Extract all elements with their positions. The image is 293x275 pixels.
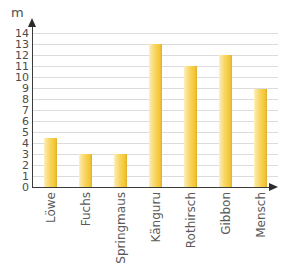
x-axis-category-label: Känguru [150, 192, 162, 242]
x-axis-label-slot: Löwe [44, 190, 57, 275]
bar[interactable] [254, 89, 267, 187]
x-axis-label-slot: Känguru [149, 190, 162, 275]
bar-slot [219, 33, 232, 187]
bar[interactable] [44, 138, 57, 188]
x-axis-line [32, 187, 270, 188]
bar-chart: m 14131211109876543210 LöweFuchsSpringma… [0, 0, 293, 275]
x-axis-label-slot: Mensch [254, 190, 267, 275]
bar-slot [114, 33, 127, 187]
bar-slot [149, 33, 162, 187]
x-axis-category-label: Fuchs [80, 192, 92, 226]
x-axis-label-slot: Rothirsch [184, 190, 197, 275]
x-axis-category-label: Springmaus [115, 192, 127, 264]
bar[interactable] [79, 154, 92, 187]
bar[interactable] [114, 154, 127, 187]
bar-slot [44, 33, 57, 187]
bar[interactable] [219, 55, 232, 187]
bar-series [33, 33, 278, 187]
y-axis-tick-labels: 14131211109876543210 [0, 0, 29, 275]
x-axis-label-slot: Fuchs [79, 190, 92, 275]
x-axis-category-label: Gibbon [220, 192, 232, 235]
bar-slot [79, 33, 92, 187]
x-axis-category-labels: LöweFuchsSpringmausKänguruRothirschGibbo… [33, 190, 278, 275]
bar[interactable] [184, 66, 197, 187]
x-axis-label-slot: Gibbon [219, 190, 232, 275]
bar-slot [184, 33, 197, 187]
y-axis-tick-label: 0 [0, 182, 29, 193]
x-axis-category-label: Rothirsch [185, 192, 197, 248]
y-axis-arrow-icon [28, 18, 36, 27]
bar-slot [254, 33, 267, 187]
x-axis-category-label: Mensch [255, 192, 267, 238]
bar[interactable] [149, 44, 162, 187]
x-axis-category-label: Löwe [45, 192, 57, 223]
x-axis-label-slot: Springmaus [114, 190, 127, 275]
